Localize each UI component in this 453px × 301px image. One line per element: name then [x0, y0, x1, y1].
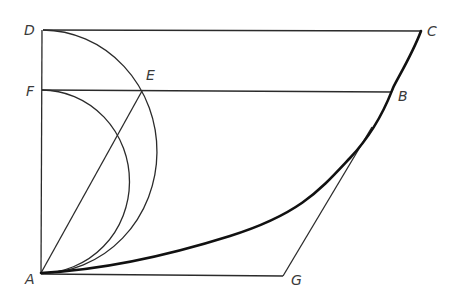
- line-DA: [41, 30, 42, 274]
- arc-large-AD: [41, 30, 157, 273]
- geometry-diagram: D F E C B A G: [0, 0, 453, 301]
- curve-ABC: [41, 31, 421, 273]
- line-AG: [41, 274, 283, 276]
- label-B: B: [398, 88, 408, 104]
- line-FB: [42, 90, 391, 92]
- line-DC: [43, 30, 421, 31]
- label-F: F: [26, 83, 35, 99]
- label-A: A: [24, 271, 35, 287]
- line-AE: [41, 91, 142, 273]
- label-C: C: [427, 23, 437, 39]
- label-G: G: [291, 272, 302, 288]
- arc-small-AF: [41, 90, 130, 273]
- label-E: E: [146, 67, 155, 83]
- label-D: D: [24, 22, 35, 38]
